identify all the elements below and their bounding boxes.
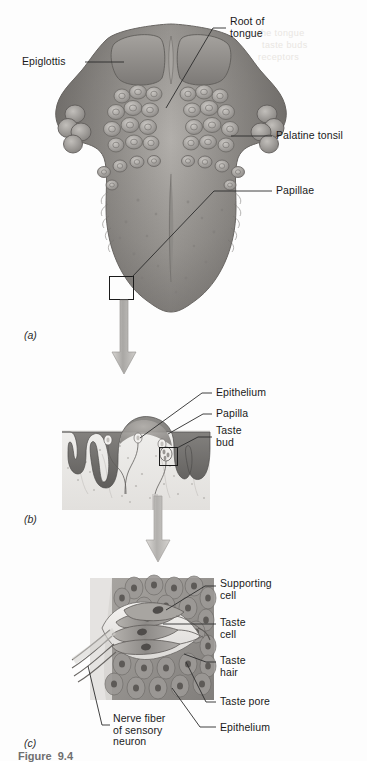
arrow-a-to-b-icon (108, 300, 144, 380)
label-root-of-tongue: Root of tongue (230, 16, 265, 39)
panel-id-c: (c) (24, 737, 36, 749)
figure-caption: Figure 9.4 (18, 750, 73, 762)
label-taste-cell: Taste cell (220, 617, 246, 640)
panel-b-inset-box (159, 447, 178, 466)
label-supporting-cell: Supporting cell (220, 578, 272, 601)
arrow-b-to-c-icon (142, 496, 178, 568)
panel-b-artwork (62, 398, 210, 510)
label-papillae: Papillae (276, 185, 314, 197)
panel-id-b: (b) (24, 513, 37, 525)
label-taste-hair: Taste hair (220, 655, 246, 678)
label-papilla: Papilla (216, 408, 248, 420)
label-palatine-tonsil: Palatine tonsil (276, 130, 343, 142)
label-epithelium-b: Epithelium (216, 387, 266, 399)
panel-a-artwork (46, 22, 296, 322)
label-nerve-fiber-of-sensory-neuron: Nerve fiber of sensory neuron (113, 713, 165, 748)
panel-id-a: (a) (24, 329, 37, 341)
label-epithelium-c: Epithelium (220, 722, 270, 734)
label-taste-pore: Taste pore (220, 696, 270, 708)
panel-c-artwork (72, 572, 214, 710)
label-taste-bud: Taste bud (216, 425, 242, 448)
panel-a-inset-box (109, 276, 134, 300)
label-epiglottis: Epiglottis (22, 56, 66, 68)
